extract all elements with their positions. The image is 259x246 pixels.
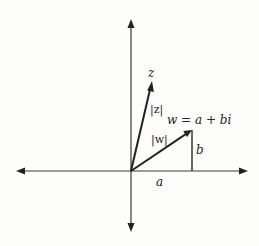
label-b: b — [196, 143, 204, 157]
label-z-modulus: |z| — [150, 103, 163, 117]
arrow-down-icon — [128, 223, 135, 232]
arrow-up-icon — [128, 19, 135, 28]
arrow-right-icon — [239, 168, 248, 175]
label-a: a — [156, 175, 163, 189]
imaginary-axis — [128, 19, 135, 232]
label-z: z — [147, 66, 155, 80]
vector-z-arrowhead-icon — [147, 81, 154, 92]
arrow-left-icon — [16, 168, 25, 175]
label-w-equation: w = a + bi — [167, 113, 231, 127]
complex-plane-diagram: z |z| w = a + bi |w| b a — [0, 0, 259, 246]
label-w-modulus: |w| — [151, 133, 168, 147]
